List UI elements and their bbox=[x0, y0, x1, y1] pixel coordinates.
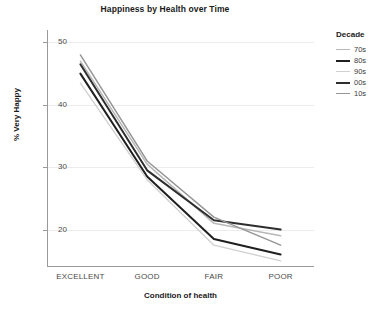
legend-swatch-icon bbox=[336, 82, 350, 84]
series-line-90s bbox=[80, 83, 280, 261]
legend-item-label: 10s bbox=[354, 89, 366, 98]
legend-item-00s[interactable]: 00s bbox=[336, 77, 388, 88]
legend-swatch-icon bbox=[336, 49, 350, 51]
legend-item-label: 00s bbox=[354, 78, 366, 87]
y-axis-label: % Very Happy bbox=[12, 55, 21, 175]
legend-title: Decade bbox=[336, 30, 388, 39]
legend-item-80s[interactable]: 80s bbox=[336, 55, 388, 66]
legend-items: 70s80s90s00s10s bbox=[336, 44, 388, 99]
y-tick-label: 40 bbox=[45, 100, 67, 109]
x-axis-label: Condition of health bbox=[47, 291, 314, 300]
y-tick-label: 50 bbox=[45, 37, 67, 46]
chart-container: Happiness by Health over Time 20304050 E… bbox=[0, 0, 388, 309]
x-tick-label: POOR bbox=[241, 272, 321, 281]
series-line-80s bbox=[80, 74, 280, 255]
series-line-10s bbox=[80, 55, 280, 245]
legend-item-label: 70s bbox=[354, 45, 366, 54]
y-tick-label: 20 bbox=[45, 225, 67, 234]
legend-item-label: 80s bbox=[354, 56, 366, 65]
legend: Decade 70s80s90s00s10s bbox=[336, 30, 388, 99]
series-line-00s bbox=[80, 64, 280, 229]
legend-item-10s[interactable]: 10s bbox=[336, 88, 388, 99]
legend-item-label: 90s bbox=[354, 67, 366, 76]
legend-swatch-icon bbox=[336, 71, 350, 72]
legend-item-90s[interactable]: 90s bbox=[336, 66, 388, 77]
legend-item-70s[interactable]: 70s bbox=[336, 44, 388, 55]
legend-swatch-icon bbox=[336, 93, 350, 95]
series-line-70s bbox=[80, 61, 280, 236]
y-tick-label: 30 bbox=[45, 162, 67, 171]
legend-swatch-icon bbox=[336, 60, 350, 62]
